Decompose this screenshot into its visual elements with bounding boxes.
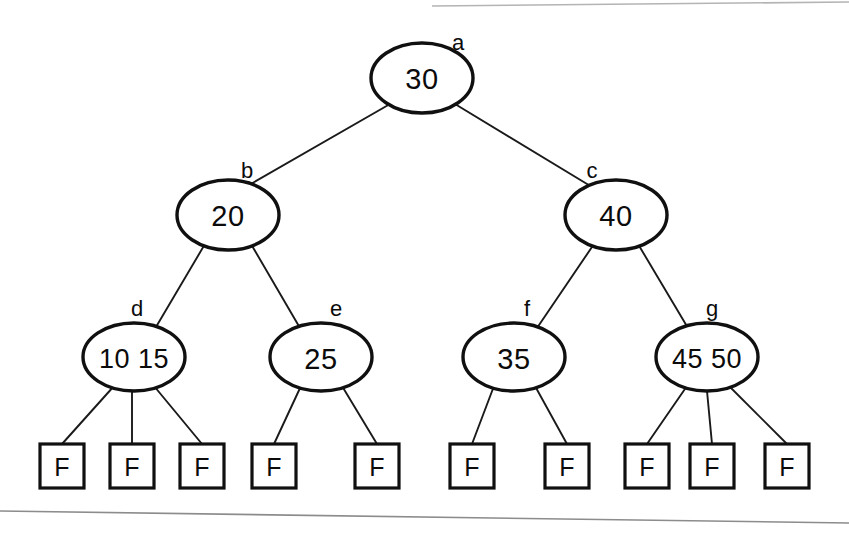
leaf-node[interactable]: F [625, 444, 669, 488]
node-b-label: b [241, 158, 253, 183]
node-a-label: a [452, 30, 465, 55]
leaf-label: F [266, 453, 281, 481]
edge-g-leaf8 [647, 386, 687, 444]
edge-b-e [251, 244, 300, 328]
leaf-node[interactable]: F [180, 444, 224, 488]
edge-e-leaf4 [274, 386, 301, 444]
leaf-node[interactable]: F [252, 444, 296, 488]
diagram-canvas: 30 a 20 b 40 c 10 15 d 25 e 35 f [0, 0, 849, 533]
leaf-node[interactable]: F [690, 444, 734, 488]
node-a-keys: 30 [405, 63, 438, 95]
edge-a-b [249, 104, 390, 185]
node-c-keys: 40 [599, 200, 632, 232]
node-e-label: e [330, 296, 342, 321]
edge-g-leaf10 [729, 386, 787, 444]
leaf-node[interactable]: F [40, 444, 84, 488]
leaf-label: F [779, 453, 794, 481]
leaf-label: F [639, 453, 654, 481]
edge-c-g [638, 244, 688, 328]
edge-g-leaf9 [707, 391, 712, 444]
leaf-node[interactable]: F [450, 444, 494, 488]
node-d-label: d [131, 296, 143, 321]
leaf-node[interactable]: F [110, 444, 154, 488]
edge-d-leaf3 [154, 386, 202, 444]
leaf-node[interactable]: F [765, 444, 809, 488]
leaf-label: F [704, 453, 719, 481]
edge-a-c [455, 104, 592, 187]
node-g-keys: 45 50 [672, 344, 742, 374]
node-f-keys: 35 [497, 343, 530, 375]
node-f-label: f [524, 296, 531, 321]
tree-diagram-svg: 30 a 20 b 40 c 10 15 d 25 e 35 f [0, 0, 849, 533]
leaf-label: F [369, 453, 384, 481]
edge-e-leaf5 [342, 386, 377, 444]
edge-f-leaf7 [535, 386, 567, 444]
node-a[interactable]: 30 a [371, 30, 473, 114]
node-g-label: g [706, 296, 718, 321]
edge-f-leaf6 [472, 386, 494, 444]
node-b[interactable]: 20 b [177, 158, 279, 251]
node-c[interactable]: 40 c [565, 158, 667, 251]
bottom-rule [0, 511, 849, 523]
leaf-label: F [194, 453, 209, 481]
tree-edges [62, 104, 787, 444]
node-g[interactable]: 45 50 g [656, 296, 758, 392]
leaf-node[interactable]: F [355, 444, 399, 488]
leaf-label: F [54, 453, 69, 481]
node-b-keys: 20 [211, 200, 244, 232]
leaf-label: F [464, 453, 479, 481]
edge-d-leaf1 [62, 386, 114, 444]
leaf-label: F [559, 453, 574, 481]
top-rule [432, 2, 849, 6]
node-e-keys: 25 [304, 343, 337, 375]
leaf-label: F [124, 453, 139, 481]
leaf-node[interactable]: F [545, 444, 589, 488]
node-c-label: c [587, 158, 598, 183]
edge-c-f [537, 244, 594, 328]
node-d[interactable]: 10 15 d [83, 296, 185, 392]
edge-b-d [156, 244, 205, 327]
node-d-keys: 10 15 [99, 344, 169, 374]
node-e[interactable]: 25 e [270, 296, 372, 392]
